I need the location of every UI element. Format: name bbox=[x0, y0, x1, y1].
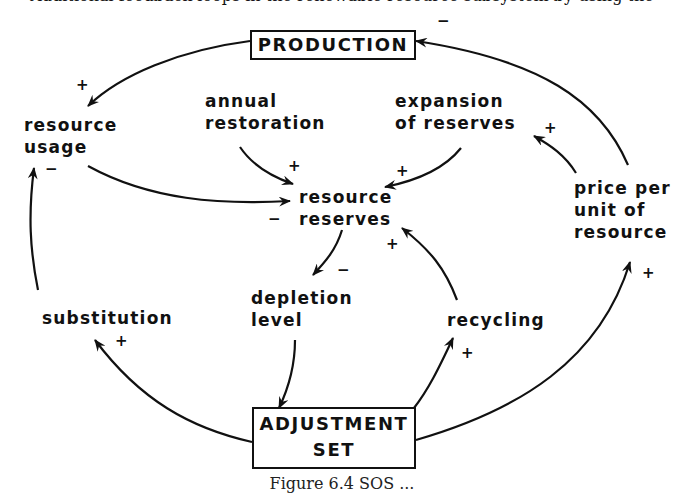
sign-recycling-to-reserves: + bbox=[386, 237, 399, 252]
node-text: usage bbox=[24, 136, 117, 158]
sign-price-to-production: − bbox=[437, 14, 450, 29]
sign-expansion-to-reserves: + bbox=[396, 164, 409, 179]
node-text: annual bbox=[205, 90, 326, 112]
sign-usage-to-reserves: − bbox=[268, 212, 281, 227]
node-resource-usage: resource usage bbox=[24, 114, 117, 158]
node-text: recycling bbox=[447, 309, 545, 331]
sign-adjustment-to-substitution: + bbox=[115, 334, 128, 349]
arrow-restoration-to-reserves bbox=[240, 147, 293, 184]
node-text: resource bbox=[24, 114, 117, 136]
node-text: unit of bbox=[574, 199, 671, 221]
arrow-price-to-expansion bbox=[534, 136, 576, 173]
sign-adjustment-to-price: + bbox=[642, 266, 655, 281]
arrow-adjustment-to-price bbox=[416, 262, 630, 440]
node-text: price per bbox=[574, 177, 671, 199]
sign-reserves-to-depletion: − bbox=[337, 263, 350, 278]
arrow-adjustment-to-recycling bbox=[414, 338, 453, 408]
arrow-usage-to-reserves bbox=[88, 166, 290, 202]
node-text: of reserves bbox=[395, 112, 516, 134]
node-resource-reserves: resource reserves bbox=[299, 186, 392, 230]
node-price-per-unit: price per unit of resource bbox=[574, 177, 671, 243]
sign-substitution-to-usage: − bbox=[45, 162, 58, 177]
figure-caption: Figure 6.4 SOS ... bbox=[0, 474, 684, 493]
sign-restoration-to-reserves: + bbox=[288, 159, 301, 174]
production-label: PRODUCTION bbox=[258, 34, 408, 55]
adjustment-set-box: ADJUSTMENT SET bbox=[252, 407, 416, 469]
node-text: expansion bbox=[395, 90, 516, 112]
node-text: resource bbox=[299, 186, 392, 208]
node-text: reserves bbox=[299, 208, 392, 230]
node-depletion-level: depletion level bbox=[251, 287, 353, 331]
node-expansion-of-reserves: expansion of reserves bbox=[395, 90, 516, 134]
node-text: level bbox=[251, 309, 353, 331]
node-annual-restoration: annual restoration bbox=[205, 90, 326, 134]
node-text: restoration bbox=[205, 112, 326, 134]
node-recycling: recycling bbox=[447, 309, 545, 331]
arrow-depletion-to-adjustment bbox=[279, 340, 295, 408]
adjustment-label-line2: SET bbox=[254, 437, 414, 463]
arrow-adjustment-to-substitution bbox=[95, 340, 252, 442]
adjustment-label-line1: ADJUSTMENT bbox=[254, 411, 414, 437]
arrow-substitution-to-usage bbox=[31, 168, 38, 290]
sign-price-to-expansion: + bbox=[544, 121, 557, 136]
sign-adjustment-to-recycling: + bbox=[461, 346, 474, 361]
node-text: depletion bbox=[251, 287, 353, 309]
node-text: substitution bbox=[42, 307, 173, 329]
arrow-recycling-to-reserves bbox=[402, 228, 457, 300]
production-box: PRODUCTION bbox=[250, 30, 416, 60]
node-text: resource bbox=[574, 221, 671, 243]
node-substitution: substitution bbox=[42, 307, 173, 329]
sign-production-to-usage: + bbox=[76, 78, 89, 93]
